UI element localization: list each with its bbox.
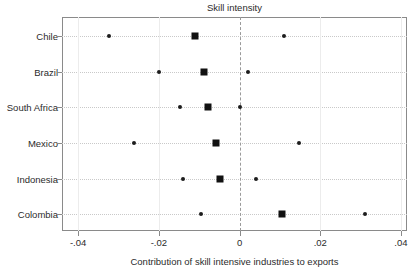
y-tick: [57, 214, 62, 215]
x-axis-title: Contribution of skill intensive industri…: [62, 256, 407, 267]
x-tick-label: -.02: [151, 237, 167, 248]
marker-south-africa-high: [238, 105, 242, 109]
marker-brazil-low: [157, 70, 161, 74]
y-label-colombia: Colombia: [18, 209, 58, 220]
gridline-x: [78, 17, 79, 231]
chart-title: Skill intensity: [62, 2, 407, 13]
marker-mexico-high: [297, 141, 301, 145]
y-label-mexico: Mexico: [28, 137, 58, 148]
marker-indonesia-estimate: [216, 175, 223, 182]
marker-mexico-estimate: [212, 139, 219, 146]
marker-mexico-low: [132, 141, 136, 145]
gridline-x: [159, 17, 160, 231]
y-tick: [57, 107, 62, 108]
marker-south-africa-estimate: [205, 104, 212, 111]
gridline-row-indonesia: [62, 179, 407, 180]
gridline-row-chile: [62, 36, 407, 37]
x-tick: [401, 231, 402, 236]
gridline-x: [401, 17, 402, 231]
x-tick: [240, 231, 241, 236]
marker-chile-low: [107, 34, 111, 38]
plot-area: [62, 17, 407, 231]
x-tick: [78, 231, 79, 236]
y-tick: [57, 179, 62, 180]
y-tick: [57, 36, 62, 37]
x-tick-label: .02: [314, 237, 327, 248]
y-label-chile: Chile: [36, 30, 58, 41]
marker-indonesia-low: [181, 177, 185, 181]
y-label-brazil: Brazil: [34, 66, 58, 77]
x-tick-label: .04: [394, 237, 407, 248]
x-tick: [320, 231, 321, 236]
marker-colombia-estimate: [279, 211, 286, 218]
y-label-indonesia: Indonesia: [17, 173, 58, 184]
y-tick: [57, 143, 62, 144]
gridline-row-south-africa: [62, 107, 407, 108]
gridline-x: [320, 17, 321, 231]
y-tick: [57, 72, 62, 73]
marker-chile-estimate: [191, 32, 198, 39]
skill-intensity-chart: Skill intensity ChileBrazilSouth AfricaM…: [0, 0, 412, 267]
marker-brazil-high: [246, 70, 250, 74]
marker-indonesia-high: [254, 177, 258, 181]
x-tick-label: 0: [237, 237, 242, 248]
marker-colombia-high: [363, 212, 367, 216]
gridline-row-brazil: [62, 72, 407, 73]
x-tick-label: -.04: [70, 237, 86, 248]
y-label-south-africa: South Africa: [7, 102, 58, 113]
gridline-row-mexico: [62, 143, 407, 144]
marker-chile-high: [282, 34, 286, 38]
marker-brazil-estimate: [200, 68, 207, 75]
marker-colombia-low: [199, 212, 203, 216]
x-tick: [159, 231, 160, 236]
gridline-row-colombia: [62, 214, 407, 215]
zero-reference-line: [240, 17, 241, 231]
marker-south-africa-low: [178, 105, 182, 109]
